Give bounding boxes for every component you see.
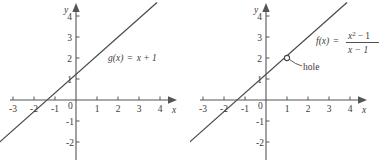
y-axis-label: y <box>63 5 69 15</box>
svg-text:g(x)=x + 1: g(x)=x + 1 <box>108 53 157 64</box>
x-tick-label: -3 <box>199 104 207 114</box>
y-axis-arrow-icon <box>72 3 79 12</box>
y-tick-label: 1 <box>67 75 72 85</box>
line-g <box>0 3 157 144</box>
graph-panel-right: -3 -2 -1 1 2 3 4 0 4 3 2 1 -1 -2 x y hol… <box>190 0 379 166</box>
x-tick-label: -3 <box>9 104 17 114</box>
x-tick-label: 1 <box>95 104 100 114</box>
y-tick-label: 2 <box>67 54 72 64</box>
y-axis-label: y <box>253 5 259 15</box>
x-tick-label: 2 <box>306 104 311 114</box>
x-axis-arrow-icon <box>168 96 177 103</box>
denominator: x − 1 <box>347 45 368 55</box>
y-tick-label: 1 <box>257 75 262 85</box>
y-tick-label: -2 <box>256 138 264 148</box>
x-axis-label: x <box>361 105 367 115</box>
x-tick-label: 4 <box>158 104 163 114</box>
svg-text:x2− 1: x2− 1 <box>347 30 370 41</box>
hole-leader-line <box>290 60 302 66</box>
function-name: g(x) <box>108 53 123 64</box>
x-tick-label: 1 <box>285 104 290 114</box>
x-tick-label: 3 <box>327 104 332 114</box>
x-axis-label: x <box>171 105 177 115</box>
y-tick-label: 3 <box>67 33 72 43</box>
x-tick-label: -2 <box>30 104 38 114</box>
graph-panel-left: -3 -2 -1 1 2 3 4 0 4 3 2 1 -1 -2 x y g(x… <box>0 0 189 166</box>
x-tick-label: -1 <box>51 104 59 114</box>
y-tick-label: -2 <box>66 138 74 148</box>
y-tick-label: 3 <box>257 33 262 43</box>
origin-label: 0 <box>68 101 73 111</box>
function-name: f(x) <box>316 36 329 47</box>
x-tick-label: 2 <box>116 104 121 114</box>
y-tick-label: -1 <box>256 117 264 127</box>
equals-sign: = <box>127 53 132 63</box>
x-axis-arrow-icon <box>358 96 367 103</box>
numerator-rest: − 1 <box>358 31 371 41</box>
y-tick-label: -1 <box>66 117 74 127</box>
x-tick-label: 3 <box>137 104 142 114</box>
svg-text:f(x)=: f(x)= <box>316 36 339 47</box>
origin-label: 0 <box>258 101 263 111</box>
function-label-f: f(x)= x2− 1 x − 1 <box>316 30 379 55</box>
equals-sign: = <box>333 36 338 46</box>
x-tick-label: -1 <box>241 104 249 114</box>
function-label-g: g(x)=x + 1 <box>108 53 157 64</box>
x-tick-label: 4 <box>348 104 353 114</box>
hole-annotation-label: hole <box>303 62 319 72</box>
x-tick-label: -2 <box>220 104 228 114</box>
line-f <box>190 3 347 144</box>
function-expression: x + 1 <box>136 53 157 63</box>
y-tick-label: 2 <box>257 54 262 64</box>
hole-marker-icon <box>284 55 289 60</box>
y-axis-arrow-icon <box>262 3 269 12</box>
numerator-exponent: 2 <box>352 30 356 37</box>
